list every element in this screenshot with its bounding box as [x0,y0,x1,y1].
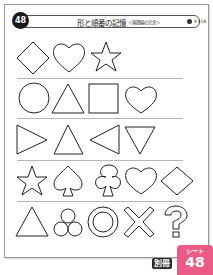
heart-icon [126,168,157,194]
club-icon [96,165,121,196]
star-icon [17,166,47,195]
spade-icon [54,166,82,196]
bessatsu-label: 別冊 [152,258,172,269]
circle-icon [19,83,49,113]
star-icon [91,42,121,71]
diamond-icon [17,42,49,74]
shape-row-2 [10,82,200,116]
triangle-up-icon [16,207,48,236]
triangle-up-icon [52,84,84,113]
triangle-down-icon [125,127,155,154]
diamond-icon [161,167,193,195]
shape-row-4 [10,163,210,199]
shape-row-1 [10,38,200,74]
page-reference: P.118 [187,19,206,24]
reference-icon [187,19,192,24]
heart-icon [54,44,85,72]
shape-row-5 [10,204,210,240]
page-ref-label: P.118 [194,19,206,24]
sheet-tag-number: 48 [178,254,212,270]
worksheet-title: 形と順番の記憶 [77,17,126,28]
heart-icon [126,87,157,113]
header-bar: 形と順番の記憶 ＜基礎編の完全＞ P.118 [20,15,200,28]
cross-icon [124,207,154,237]
triangle-up-icon [54,125,83,154]
three-circles-icon [54,209,82,236]
row-divider [17,201,183,202]
row-divider [17,160,183,161]
shape-row-3 [10,122,200,156]
row-divider [17,78,183,79]
worksheet-header: 形と順番の記憶 ＜基礎編の完全＞ P.118 48 [12,14,199,28]
triangle-right-icon [17,125,47,154]
square-icon [89,84,118,113]
worksheet-number-badge: 48 [12,12,29,29]
worksheet-subtitle: ＜基礎編の完全＞ [128,19,160,25]
question-mark-icon [165,206,187,237]
double-circle-icon [88,207,118,237]
triangle-left-icon [90,125,119,154]
row-divider [17,118,183,119]
